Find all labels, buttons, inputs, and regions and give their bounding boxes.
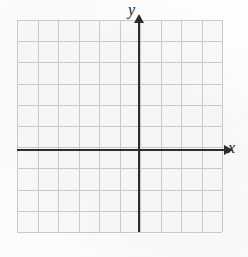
- grid-lines: [17, 20, 222, 232]
- gridline-horizontal: [17, 84, 222, 85]
- gridline-horizontal: [17, 20, 222, 21]
- coordinate-grid-figure: y x: [0, 0, 248, 257]
- gridline-vertical: [222, 20, 223, 232]
- gridline-horizontal: [17, 232, 222, 233]
- gridline-horizontal: [17, 41, 222, 42]
- y-axis-line: [138, 22, 140, 232]
- gridline-horizontal: [17, 147, 222, 148]
- y-axis-arrow-icon: [134, 14, 144, 23]
- x-axis-line: [17, 149, 224, 151]
- gridline-horizontal: [17, 190, 222, 191]
- gridline-horizontal: [17, 126, 222, 127]
- plot-area: [17, 20, 222, 232]
- gridline-horizontal: [17, 62, 222, 63]
- gridline-horizontal: [17, 168, 222, 169]
- x-axis-label: x: [228, 140, 235, 156]
- gridline-horizontal: [17, 211, 222, 212]
- gridline-horizontal: [17, 105, 222, 106]
- y-axis-label: y: [128, 2, 135, 18]
